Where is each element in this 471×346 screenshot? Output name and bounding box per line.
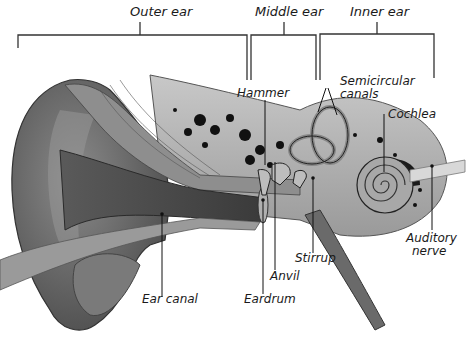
label-cochlea: Cochlea xyxy=(388,108,436,121)
label-inner-ear: Inner ear xyxy=(350,5,409,18)
label-stirrup: Stirrup xyxy=(295,252,336,265)
label-hammer: Hammer xyxy=(237,87,289,100)
middle-ear-bracket xyxy=(251,35,316,80)
outer-ear-bracket xyxy=(18,35,247,80)
label-anvil: Anvil xyxy=(270,270,300,283)
section-brackets xyxy=(18,22,434,80)
ear-illustration xyxy=(0,0,471,346)
label-semicircular-canals-line2: canals xyxy=(340,88,379,101)
label-ear-canal: Ear canal xyxy=(142,293,198,306)
label-outer-ear: Outer ear xyxy=(130,5,192,18)
label-eardrum: Eardrum xyxy=(244,293,296,306)
cochlea xyxy=(357,157,413,213)
label-middle-ear: Middle ear xyxy=(255,5,323,18)
label-auditory-nerve-line2: nerve xyxy=(412,245,446,258)
